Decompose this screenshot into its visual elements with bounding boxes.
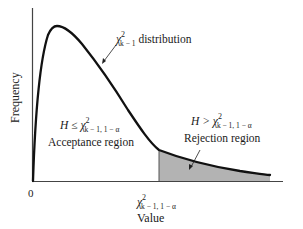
origin-tick-label: 0	[28, 188, 34, 199]
y-axis-label: Frequency	[9, 73, 21, 123]
h-symbol: H >	[191, 115, 213, 127]
x-axis-label: Value	[137, 212, 164, 224]
rejection-region-text: Rejection region	[184, 133, 260, 145]
subscript: k − 1, 1 − α	[84, 125, 119, 134]
h-symbol: H ≤	[60, 119, 80, 131]
superscript: 2	[85, 116, 89, 125]
superscript: 2	[142, 193, 146, 202]
distribution-text: distribution	[138, 33, 191, 45]
superscript: 2	[121, 30, 125, 39]
acceptance-label: H ≤ χ2k − 1, 1 − α	[60, 120, 119, 132]
distribution-label: χ2k − 1 distribution	[116, 34, 191, 46]
subscript: k − 1, 1 − α	[217, 121, 252, 130]
dist-arrow	[104, 45, 116, 61]
superscript: 2	[218, 112, 222, 121]
critical-value-label: χ2k − 1, 1 − α	[137, 197, 176, 209]
acceptance-region-text: Acceptance region	[48, 137, 134, 149]
distribution-curve	[33, 26, 270, 181]
subscript: k − 1, 1 − α	[141, 202, 176, 211]
rejection-label: H > χ2k − 1, 1 − α	[191, 116, 252, 128]
subscript: k − 1	[120, 39, 135, 48]
